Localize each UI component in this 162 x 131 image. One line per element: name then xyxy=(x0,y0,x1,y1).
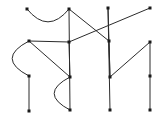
graph-edge-arc xyxy=(54,77,70,110)
graph-node xyxy=(109,109,112,112)
graph-node xyxy=(28,110,31,113)
graph-node xyxy=(149,109,152,112)
graph-edge-line xyxy=(69,9,109,41)
graph-node xyxy=(26,8,29,11)
node-layer xyxy=(26,7,152,113)
graph-node xyxy=(149,7,152,10)
graph-node xyxy=(69,76,72,79)
graph-node xyxy=(68,41,71,44)
graph-node xyxy=(68,8,71,11)
graph-edge-arc xyxy=(12,41,29,76)
graph-drawing-figure xyxy=(0,0,162,131)
graph-edge-line xyxy=(69,8,150,42)
graph-node xyxy=(149,75,152,78)
graph-node xyxy=(69,109,72,112)
graph-edge-line xyxy=(110,42,150,77)
edge-layer xyxy=(12,8,150,111)
graph-edge-line xyxy=(29,41,69,42)
graph-node xyxy=(28,75,31,78)
graph-edge-line xyxy=(29,41,70,77)
graph-node xyxy=(109,76,112,79)
graph-edge-arc xyxy=(27,9,69,22)
graph-node xyxy=(107,7,110,10)
graph-node xyxy=(149,41,152,44)
graph-node xyxy=(28,40,31,43)
graph-canvas xyxy=(0,0,162,131)
graph-node xyxy=(108,40,111,43)
